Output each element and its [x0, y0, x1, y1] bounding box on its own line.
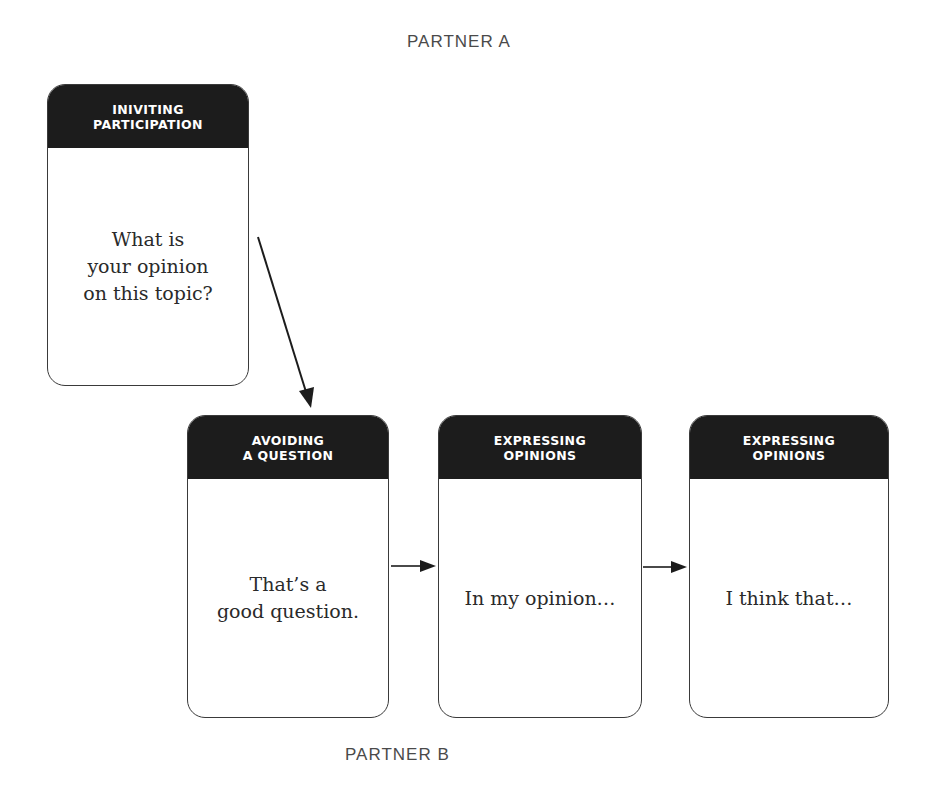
card-header: EXPRESSING OPINIONS — [690, 416, 888, 479]
card-header: INIVITING PARTICIPATION — [48, 85, 248, 148]
card-body: That’s a good question. — [188, 479, 388, 717]
card-header-line: AVOIDING — [252, 433, 325, 448]
card-body-line: What is — [83, 226, 213, 253]
card-body: What is your opinion on this topic? — [48, 148, 248, 385]
card-inviting-participation: INIVITING PARTICIPATION What is your opi… — [47, 84, 249, 386]
card-body-line: on this topic? — [83, 280, 213, 307]
card-header: EXPRESSING OPINIONS — [439, 416, 641, 479]
card-body-line: In my opinion… — [464, 585, 615, 612]
card-body-line: good question. — [217, 598, 359, 625]
card-header-line: OPINIONS — [504, 448, 577, 463]
card-header-line: INIVITING — [112, 102, 184, 117]
card-header-line: OPINIONS — [753, 448, 826, 463]
card-expressing-opinions-1: EXPRESSING OPINIONS In my opinion… — [438, 415, 642, 718]
card-body: I think that… — [690, 479, 888, 717]
card-expressing-opinions-2: EXPRESSING OPINIONS I think that… — [689, 415, 889, 718]
card-header: AVOIDING A QUESTION — [188, 416, 388, 479]
card-header-line: EXPRESSING — [494, 433, 586, 448]
card-header-line: A QUESTION — [243, 448, 334, 463]
card-body: In my opinion… — [439, 479, 641, 717]
card-header-line: PARTICIPATION — [93, 117, 203, 132]
partner-b-label: PARTNER B — [345, 745, 450, 765]
card-header-line: EXPRESSING — [743, 433, 835, 448]
card-body-line: That’s a — [217, 571, 359, 598]
arrow-right-icon — [643, 561, 687, 573]
card-body-line: I think that… — [725, 585, 852, 612]
card-body-line: your opinion — [83, 253, 213, 280]
arrow-right-icon — [391, 560, 436, 572]
partner-a-label: PARTNER A — [407, 32, 511, 52]
card-avoiding-a-question: AVOIDING A QUESTION That’s a good questi… — [187, 415, 389, 718]
arrow-diagonal-icon — [258, 237, 314, 408]
